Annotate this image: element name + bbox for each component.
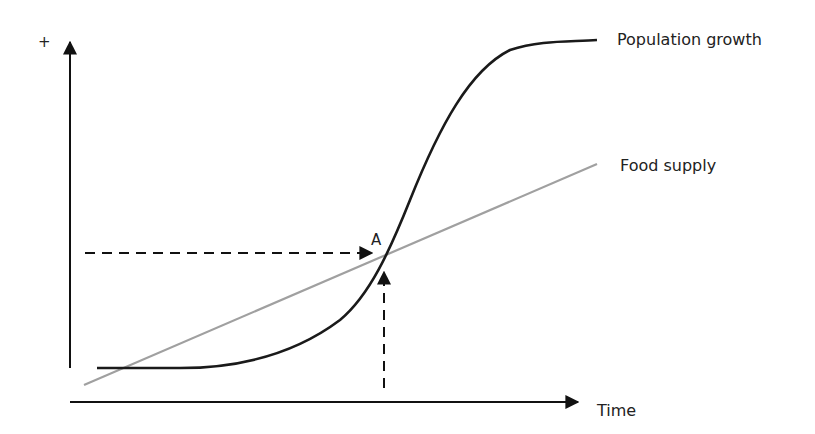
food-supply-label: Food supply <box>620 156 716 175</box>
malthus-diagram: + Time A Population growth Food supply <box>0 0 815 434</box>
y-axis-plus-label: + <box>38 33 51 51</box>
population-growth-label: Population growth <box>617 30 762 49</box>
food-supply-line <box>84 164 597 385</box>
population-growth-curve <box>97 40 597 368</box>
x-axis-label: Time <box>596 401 636 420</box>
point-a-label: A <box>371 231 382 249</box>
